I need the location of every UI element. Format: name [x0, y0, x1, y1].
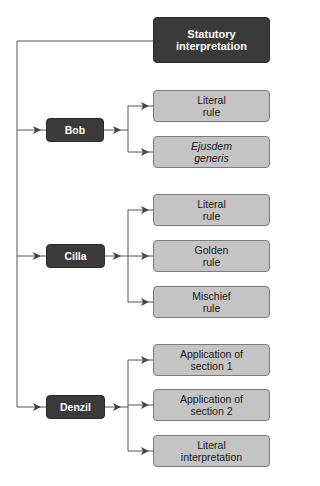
rule-node: Ejusdem generis	[153, 136, 270, 168]
root-node-statutory-interpretation: Statutory interpretation	[153, 17, 270, 63]
rule-node: Literal interpretation	[153, 435, 270, 467]
rule-label: Literal rule	[197, 198, 226, 222]
rule-node: Golden rule	[153, 240, 270, 272]
rule-label: Ejusdem generis	[191, 140, 232, 164]
rule-node: Literal rule	[153, 90, 270, 122]
rule-node: Literal rule	[153, 194, 270, 226]
rule-label: Literal interpretation	[181, 439, 242, 463]
person-node-denzil: Denzil	[46, 395, 105, 419]
rule-node: Application of section 1	[153, 344, 270, 376]
person-node-cilla: Cilla	[46, 244, 105, 268]
rule-label: Application of section 1	[180, 348, 243, 372]
rule-node: Application of section 2	[153, 389, 270, 421]
rule-label: Golden rule	[195, 244, 229, 268]
rule-label: Literal rule	[197, 94, 226, 118]
person-label: Bob	[65, 124, 85, 136]
rule-node: Mischief rule	[153, 286, 270, 318]
person-label: Denzil	[60, 401, 91, 413]
person-node-bob: Bob	[46, 118, 104, 142]
rule-label: Mischief rule	[192, 290, 231, 314]
person-label: Cilla	[64, 250, 86, 262]
root-label: Statutory interpretation	[176, 28, 247, 52]
rule-label: Application of section 2	[180, 393, 243, 417]
